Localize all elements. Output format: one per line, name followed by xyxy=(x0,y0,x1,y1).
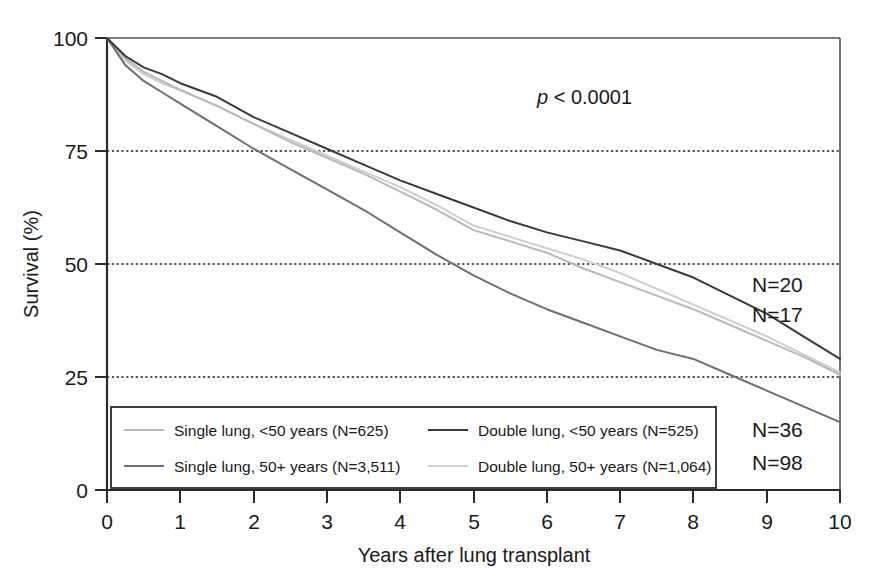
y-tick-label-0: 0 xyxy=(76,479,88,502)
pvalue-symbol: p xyxy=(536,86,548,108)
x-tick-label-3: 3 xyxy=(321,510,333,533)
chart-canvas: 100 75 50 25 0 0 1 2 3 4 5 6 7 xyxy=(0,0,876,588)
x-tick-label-4: 4 xyxy=(394,510,406,533)
legend-item-label: Double lung, 50+ years (N=1,064) xyxy=(478,458,712,475)
x-axis-title: Years after lung transplant xyxy=(358,544,591,566)
x-tick-label-2: 2 xyxy=(248,510,260,533)
x-tick-label-5: 5 xyxy=(468,510,480,533)
pvalue-annotation: p < 0.0001 xyxy=(536,86,632,108)
x-tick-label-8: 8 xyxy=(687,510,699,533)
x-tick-label-0: 0 xyxy=(101,510,113,533)
survival-chart: 100 75 50 25 0 0 1 2 3 4 5 6 7 xyxy=(0,0,876,588)
survival-curves xyxy=(107,38,840,422)
x-tick-label-7: 7 xyxy=(614,510,626,533)
n-label-bottom-1: N=36 xyxy=(752,418,803,441)
y-tick-label-50: 50 xyxy=(65,253,88,276)
y-axis-ticks: 100 75 50 25 0 xyxy=(53,27,107,502)
x-tick-label-6: 6 xyxy=(541,510,553,533)
legend-item-label: Single lung, 50+ years (N=3,511) xyxy=(174,458,400,475)
curve-double-lung-50-years xyxy=(107,38,840,372)
curve-single-lung-50-years xyxy=(107,38,840,375)
y-tick-label-75: 75 xyxy=(65,140,88,163)
y-tick-label-100: 100 xyxy=(53,27,88,50)
n-label-top-1: N=20 xyxy=(752,273,803,296)
legend-item-label: Single lung, <50 years (N=625) xyxy=(174,422,389,439)
y-tick-label-25: 25 xyxy=(65,366,88,389)
x-tick-label-10: 10 xyxy=(828,510,851,533)
x-tick-label-9: 9 xyxy=(761,510,773,533)
n-label-top-2: N=17 xyxy=(752,303,803,326)
curve-double-lung-50-years xyxy=(107,38,840,359)
y-axis-title: Survival (%) xyxy=(20,210,42,318)
x-axis-ticks: 0 1 2 3 4 5 6 7 8 9 10 xyxy=(101,490,852,533)
n-label-bottom-2: N=98 xyxy=(752,451,803,474)
legend: Single lung, <50 years (N=625) Single lu… xyxy=(111,407,716,488)
legend-box xyxy=(111,407,716,488)
x-tick-label-1: 1 xyxy=(174,510,186,533)
gridlines xyxy=(107,151,840,377)
legend-item-label: Double lung, <50 years (N=525) xyxy=(478,422,699,439)
pvalue-rest: < 0.0001 xyxy=(548,86,632,108)
